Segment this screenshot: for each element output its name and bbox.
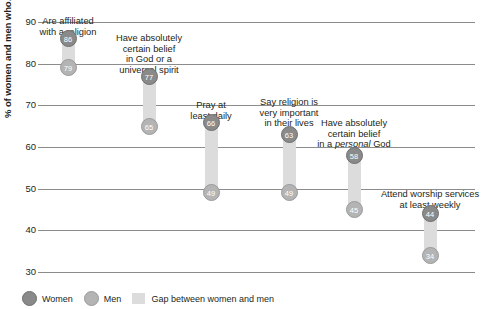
men-data-point: 49	[203, 184, 220, 201]
men-data-point: 34	[422, 247, 439, 264]
y-axis-tick-label: 70	[18, 100, 36, 109]
men-data-point: 79	[60, 59, 77, 76]
gridline	[38, 272, 475, 273]
men-marker-icon	[84, 291, 99, 306]
gridline	[38, 230, 475, 231]
gap-swatch-icon	[132, 293, 145, 304]
y-axis-tick-label: 30	[18, 267, 36, 276]
women-marker-icon	[22, 291, 37, 306]
women-data-point: 58	[346, 147, 363, 164]
legend-item-women: Women	[22, 291, 73, 306]
legend: Women Men Gap between women and men	[22, 291, 285, 306]
women-data-point: 86	[60, 30, 77, 47]
women-data-point: 44	[422, 205, 439, 222]
women-data-point: 77	[141, 68, 158, 85]
legend-label-gap: Gap between women and men	[151, 294, 274, 304]
gridline	[38, 64, 475, 65]
legend-label-women: Women	[42, 294, 73, 304]
legend-item-men: Men	[84, 291, 122, 306]
legend-item-gap: Gap between women and men	[132, 293, 274, 304]
group-label: Have absolutelycertain beliefin a person…	[304, 118, 404, 150]
y-axis-title: % of women and men who…	[2, 0, 13, 118]
y-axis-tick-label: 80	[18, 59, 36, 68]
men-data-point: 45	[346, 201, 363, 218]
y-axis-tick-label: 40	[18, 225, 36, 234]
gap-chart: % of women and men who… 90807060504030 A…	[0, 0, 488, 309]
y-axis-tick-label: 60	[18, 142, 36, 151]
men-data-point: 65	[141, 118, 158, 135]
gridline	[38, 147, 475, 148]
men-data-point: 49	[281, 184, 298, 201]
y-axis-tick-label: 50	[18, 184, 36, 193]
women-data-point: 63	[281, 126, 298, 143]
gap-bar	[205, 122, 218, 193]
women-data-point: 66	[203, 114, 220, 131]
legend-label-men: Men	[104, 294, 122, 304]
